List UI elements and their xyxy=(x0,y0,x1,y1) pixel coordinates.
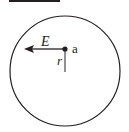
field-label: E xyxy=(40,34,50,49)
field-diagram: E a r xyxy=(0,0,129,132)
radius-label: r xyxy=(57,53,63,68)
point-label: a xyxy=(72,41,78,56)
